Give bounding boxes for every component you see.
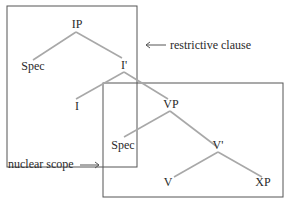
edge-ip-spec (33, 32, 76, 60)
node-xp: XP (255, 175, 271, 189)
node-i-bar: I' (121, 58, 127, 72)
restrictive-clause-label: restrictive clause (170, 38, 251, 52)
edge-vp-vbar (170, 111, 216, 146)
node-vp: VP (163, 97, 179, 111)
edge-vbar-xp (218, 152, 262, 177)
node-ip: IP (72, 17, 83, 31)
node-i: I (75, 99, 79, 113)
edge-ip-ibar (76, 32, 122, 58)
node-spec-top: Spec (21, 59, 44, 73)
edge-ibar-i (76, 72, 124, 99)
syntax-tree-diagram: IP Spec I' I VP Spec V' V XP restrictive… (0, 0, 287, 205)
node-spec-bottom: Spec (111, 138, 134, 152)
node-v: V (164, 175, 173, 189)
edge-vp-spec (124, 111, 170, 137)
edge-vbar-v (174, 152, 218, 177)
node-v-bar: V' (213, 138, 224, 152)
edge-ibar-vp (124, 72, 168, 99)
nuclear-scope-label: nuclear scope (8, 157, 74, 171)
restrictive-clause-arrow-icon (146, 42, 166, 48)
